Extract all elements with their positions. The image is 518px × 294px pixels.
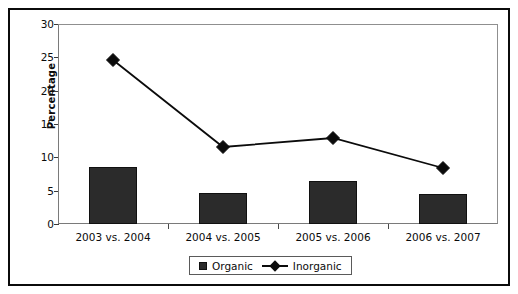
x-tick-label-2003-vs-2004: 2003 vs. 2004	[58, 231, 168, 243]
legend-entry-organic: Organic	[199, 260, 253, 272]
x-tick-label-2004-vs-2005: 2004 vs. 2005	[168, 231, 278, 243]
legend-entry-inorganic: Inorganic	[262, 260, 342, 272]
chart-figure: Percentage 30 25 20 15 10 5 0 2003 vs. 2	[0, 0, 518, 294]
x-tick-label-2005-vs-2006: 2005 vs. 2006	[278, 231, 388, 243]
bar-organic-2003-vs-2004	[89, 167, 137, 224]
y-axis-tick-marks	[0, 24, 60, 224]
legend-label-organic: Organic	[212, 260, 253, 272]
legend-square-icon	[199, 262, 207, 270]
legend-label-inorganic: Inorganic	[293, 260, 342, 272]
x-tick-mark	[168, 224, 169, 229]
x-tick-mark	[278, 224, 279, 229]
bar-organic-2004-vs-2005	[199, 193, 247, 224]
x-tick-mark	[388, 224, 389, 229]
bar-organic-2005-vs-2006	[309, 181, 357, 224]
y-tick-mark	[54, 224, 59, 225]
x-tick-label-2006-vs-2007: 2006 vs. 2007	[388, 231, 498, 243]
bar-organic-2006-vs-2007	[419, 194, 467, 224]
legend-diamond-line-icon	[262, 261, 288, 270]
chart-legend: Organic Inorganic	[189, 256, 352, 275]
